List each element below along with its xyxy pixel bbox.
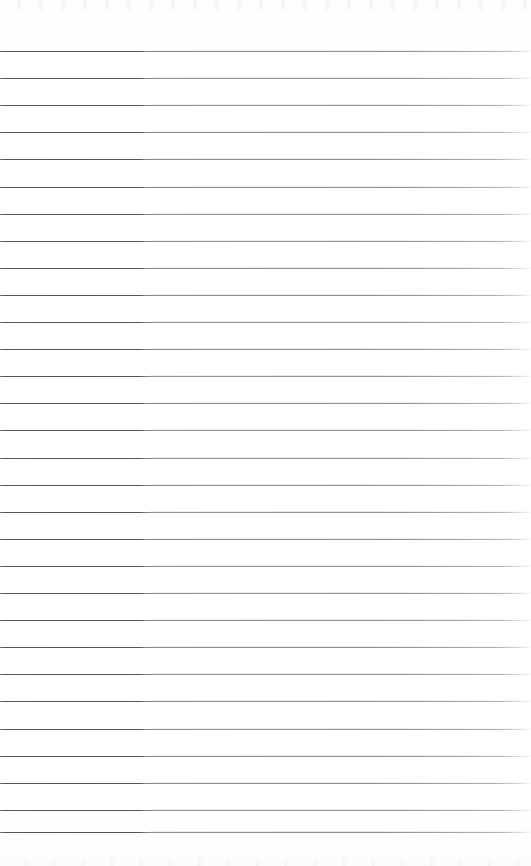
notebook-page bbox=[0, 0, 531, 866]
writing-area[interactable] bbox=[0, 51, 531, 841]
